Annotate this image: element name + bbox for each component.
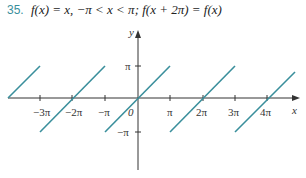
y-axis-label: y [128,26,134,38]
x-tick-label: −π [98,106,110,118]
segment-4 [170,66,235,132]
y-tick-label: π [125,60,131,72]
segment-2 [40,66,105,132]
x-axis-label: x [291,104,297,116]
x-tick-label: 0 [128,106,134,118]
y-tick-label: −π [117,126,129,138]
x-tick-label: 3π [228,106,240,118]
x-tick-label: 2π [196,106,208,118]
x-tick-label: 4π [260,106,272,118]
x-tick-label: −2π [65,106,83,118]
y-axis-arrow-icon [135,30,141,38]
segment-1 [8,66,40,98]
segment-5 [235,72,295,132]
x-axis-arrow-icon [292,95,300,101]
sawtooth-series [8,66,295,132]
sawtooth-chart: −3π −2π −π 0 π 2π 3π 4π x π −π y [0,0,306,178]
x-tick-label: −3π [33,106,51,118]
x-tick-label: π [167,106,173,118]
